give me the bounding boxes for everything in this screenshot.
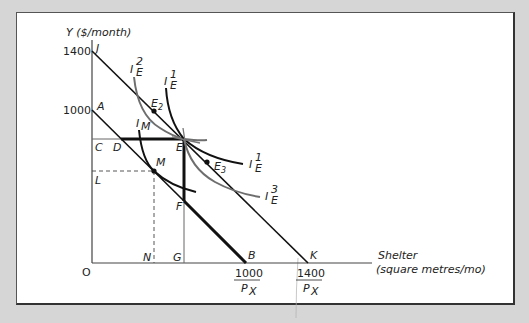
economics-diagram: Y ($/month) 1400 1000 J A C D E M L F N … xyxy=(0,0,529,323)
label-E3: E3 xyxy=(214,160,226,175)
svg-text:I: I xyxy=(265,190,268,203)
label-K: K xyxy=(310,249,318,262)
svg-text:E: E xyxy=(136,66,143,79)
label-E: E xyxy=(176,141,183,154)
svg-text:E: E xyxy=(271,194,278,207)
curve-label-IE1-right: I 1 E xyxy=(249,151,262,175)
svg-text:P: P xyxy=(303,282,310,295)
label-E2: E2 xyxy=(151,97,163,112)
label-N: N xyxy=(143,251,151,264)
label-D: D xyxy=(113,141,121,154)
budget-line-F-B-thick xyxy=(184,201,246,263)
svg-text:X: X xyxy=(248,285,257,298)
svg-text:I: I xyxy=(249,158,252,171)
x-axis-label-line2: (square metres/mo) xyxy=(376,263,486,276)
svg-text:E: E xyxy=(170,79,177,92)
svg-text:I: I xyxy=(136,117,139,130)
label-M: M xyxy=(156,156,166,169)
y-axis-label: Y ($/month) xyxy=(66,26,131,39)
svg-text:M: M xyxy=(141,120,151,133)
x-tick-1400-over-Px: 1400 P X xyxy=(296,267,325,298)
curve-label-IE2: I 2 E xyxy=(130,55,143,79)
label-A: A xyxy=(96,100,105,113)
label-L: L xyxy=(95,174,101,187)
label-B: B xyxy=(248,249,256,262)
svg-text:I: I xyxy=(130,63,133,76)
point-E3 xyxy=(204,159,209,164)
svg-text:1400: 1400 xyxy=(297,267,325,280)
svg-text:X: X xyxy=(310,285,319,298)
y-tick-1400: 1400 xyxy=(63,45,91,58)
label-origin: O xyxy=(82,266,91,279)
svg-text:I: I xyxy=(164,75,167,88)
label-C: C xyxy=(95,141,103,154)
curve-label-IE3: I 3 E xyxy=(265,183,278,207)
budget-line-J-K xyxy=(92,51,308,263)
point-M xyxy=(151,168,156,173)
y-tick-1000: 1000 xyxy=(63,104,91,117)
x-axis-label-line1: Shelter xyxy=(378,249,419,262)
svg-text:P: P xyxy=(241,282,248,295)
svg-text:1000: 1000 xyxy=(235,267,263,280)
label-G: G xyxy=(173,251,182,264)
x-tick-1000-over-Px: 1000 P X xyxy=(234,267,263,298)
svg-text:E: E xyxy=(255,162,262,175)
label-F: F xyxy=(176,200,183,213)
